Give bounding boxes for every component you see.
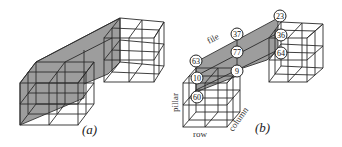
node-9: 9 [231, 65, 243, 77]
node-64: 64 [275, 47, 287, 59]
svg-text:63: 63 [192, 57, 200, 66]
right-cube-grid [104, 18, 164, 82]
svg-text:9: 9 [235, 67, 239, 76]
svg-text:10: 10 [193, 74, 201, 83]
svg-text:64: 64 [277, 49, 285, 58]
shaded-plane [20, 18, 120, 125]
label-pillar: pillar [171, 93, 180, 112]
caption-a: (a) [82, 122, 97, 137]
node-60: 60 [191, 91, 203, 103]
node-37: 37 [231, 28, 243, 40]
label-row: row [193, 129, 207, 139]
node-77: 77 [231, 46, 243, 58]
label-column: column [226, 105, 250, 133]
node-23: 23 [274, 10, 286, 22]
node-36: 36 [275, 29, 287, 41]
svg-text:60: 60 [193, 93, 201, 102]
diagram-panel-b: file pillar row column 63 10 60 37 77 9 … [171, 0, 342, 147]
svg-text:36: 36 [277, 31, 285, 40]
cube-grid-diagram-a: (a) [0, 0, 171, 147]
svg-text:23: 23 [276, 12, 284, 21]
node-10: 10 [191, 72, 203, 84]
label-file: file [205, 31, 220, 45]
diagram-panel-a: (a) [0, 0, 171, 147]
node-63: 63 [190, 55, 202, 67]
svg-text:77: 77 [233, 48, 241, 57]
cube-grid-diagram-b: file pillar row column 63 10 60 37 77 9 … [171, 0, 342, 147]
svg-text:37: 37 [233, 30, 241, 39]
caption-b: (b) [255, 120, 270, 135]
